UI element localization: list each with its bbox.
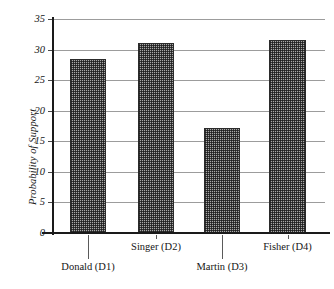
bar: [70, 59, 106, 233]
x-axis-category-label: Donald (D1): [28, 261, 148, 273]
y-axis-line: [52, 17, 54, 235]
y-axis-tick-label: 15: [21, 136, 45, 146]
category-leader-line: [88, 235, 89, 259]
bar: [204, 128, 240, 233]
bar-chart-figure: Probability of Support 05101520253035 Do…: [0, 0, 334, 289]
x-axis-category-label: Fisher (D4): [228, 241, 334, 253]
y-axis-tick-label: 25: [21, 75, 45, 85]
plot-area: [53, 19, 325, 233]
y-axis-tick-label: 20: [21, 106, 45, 116]
y-axis-tick-label: 30: [21, 45, 45, 55]
gridline: [53, 19, 325, 20]
bar: [269, 40, 306, 233]
x-axis-category-label: Singer (D2): [96, 241, 216, 253]
y-axis-tick-label: 5: [21, 197, 45, 207]
y-axis-tick-label: 35: [21, 14, 45, 24]
category-leader-line: [288, 235, 289, 239]
x-axis-line: [42, 232, 330, 234]
category-leader-line: [222, 235, 223, 259]
category-leader-line: [156, 235, 157, 239]
bar: [138, 43, 174, 233]
x-axis-category-label: Martin (D3): [162, 261, 282, 273]
y-axis-tick-label: 10: [21, 167, 45, 177]
